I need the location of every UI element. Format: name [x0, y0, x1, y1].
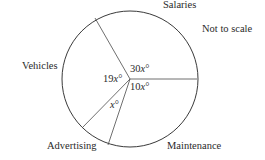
spoke-lower — [108, 79, 130, 145]
sector-label-vehicles: Vehicles — [22, 61, 58, 72]
spoke-lower-left — [82, 79, 130, 128]
angle-coefficient: 19 — [103, 73, 114, 84]
spoke-upper-left — [95, 18, 130, 79]
angle-label-advertising: x° — [110, 100, 119, 111]
degree-symbol: ° — [145, 81, 149, 92]
sector-label-salaries: Salaries — [163, 0, 196, 11]
angle-coefficient: 30 — [130, 63, 141, 74]
sector-label-advertising: Advertising — [47, 141, 97, 152]
sector-label-maintenance: Maintenance — [167, 141, 221, 152]
angle-label-vehicles: 19x° — [103, 74, 122, 85]
not-to-scale-note: Not to scale — [202, 24, 252, 35]
degree-symbol: ° — [118, 73, 122, 84]
angle-label-salaries: 30x° — [130, 64, 149, 75]
degree-symbol: ° — [145, 63, 149, 74]
angle-coefficient: 10 — [130, 81, 141, 92]
angle-label-maintenance: 10x° — [130, 82, 149, 93]
degree-symbol: ° — [115, 99, 119, 110]
